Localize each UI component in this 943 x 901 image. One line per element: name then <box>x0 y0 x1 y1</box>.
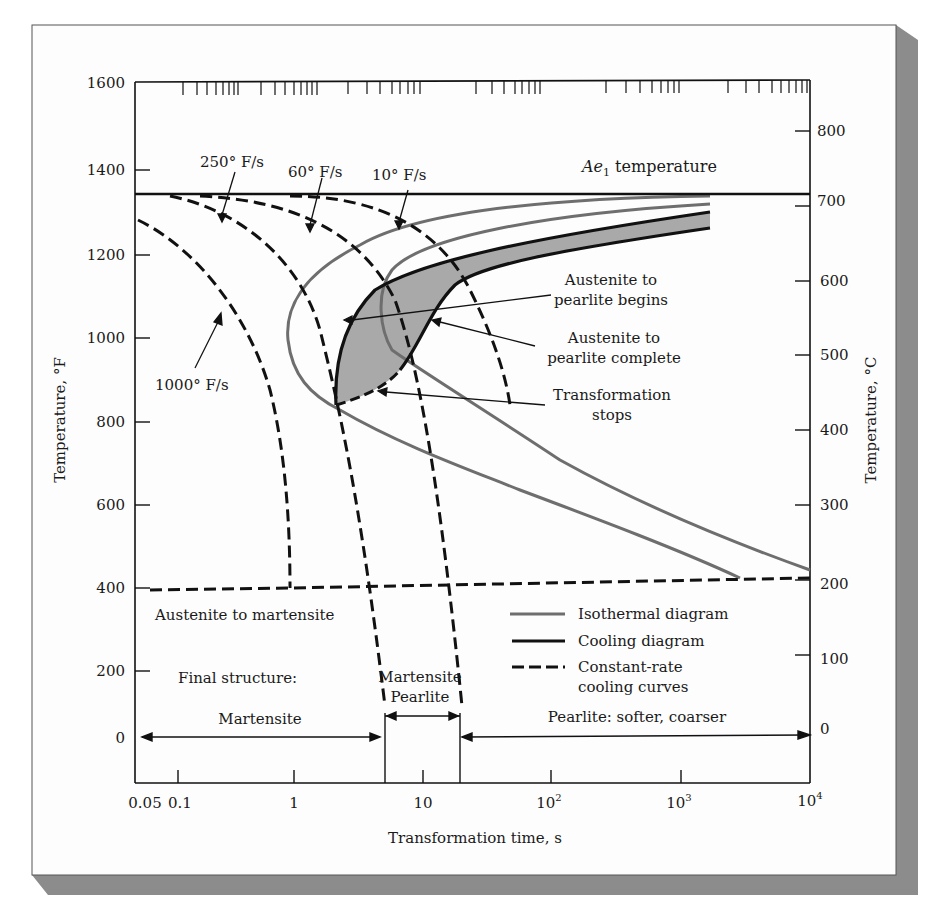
svg-text:600: 600 <box>96 496 125 514</box>
svg-text:0: 0 <box>820 720 830 738</box>
svg-text:1400: 1400 <box>87 161 125 179</box>
frame <box>32 25 896 875</box>
svg-text:Cooling diagram: Cooling diagram <box>578 632 704 650</box>
svg-text:0.1: 0.1 <box>168 794 192 812</box>
svg-text:800: 800 <box>96 413 125 431</box>
svg-text:200: 200 <box>96 662 125 680</box>
svg-text:400: 400 <box>820 421 849 439</box>
label-60: 60° F/s <box>288 163 343 181</box>
y-right-title: Temperature, °C <box>862 357 880 484</box>
svg-text:200: 200 <box>820 575 849 593</box>
svg-text:1000: 1000 <box>87 329 125 347</box>
label-martensite: Martensite <box>218 710 302 728</box>
chart-figure: 1600 1400 1200 1000 800 600 400 200 0 80… <box>0 0 943 901</box>
label-ae1: Ae1 temperature <box>580 157 717 179</box>
label-1000: 1000° F/s <box>155 376 229 394</box>
svg-text:0: 0 <box>115 729 125 747</box>
svg-text:100: 100 <box>820 650 849 668</box>
svg-text:1200: 1200 <box>87 246 125 264</box>
svg-text:0.05: 0.05 <box>128 794 161 812</box>
label-final-structure: Final structure: <box>178 669 297 687</box>
svg-text:Isothermal diagram: Isothermal diagram <box>578 605 728 623</box>
svg-text:1600: 1600 <box>87 74 125 92</box>
svg-text:500: 500 <box>820 346 849 364</box>
svg-text:400: 400 <box>96 579 125 597</box>
label-10: 10° F/s <box>372 166 427 184</box>
label-austenite-martensite: Austenite to martensite <box>154 606 334 624</box>
svg-text:800: 800 <box>817 122 846 140</box>
svg-text:600: 600 <box>820 272 849 290</box>
svg-text:300: 300 <box>820 496 849 514</box>
svg-text:700: 700 <box>817 192 846 210</box>
label-250: 250° F/s <box>200 153 264 171</box>
label-pearlite: Pearlite: softer, coarser <box>548 708 727 726</box>
x-title: Transformation time, s <box>388 829 562 847</box>
svg-text:10: 10 <box>413 794 432 812</box>
y-left-title: Temperature, °F <box>51 357 69 483</box>
svg-text:1: 1 <box>289 794 299 812</box>
